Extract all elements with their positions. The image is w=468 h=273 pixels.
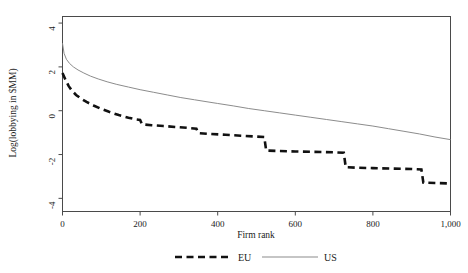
x-axis-title: Firm rank <box>237 230 275 240</box>
y-tick-label: 2 <box>48 70 58 75</box>
x-tick-label: 400 <box>211 219 225 229</box>
legend-label-us: US <box>324 252 337 263</box>
x-tick-label: 800 <box>366 219 380 229</box>
lobbying-distribution-chart: 420-2-4 02004006008001,000 Firm rank Log… <box>0 0 468 273</box>
x-tick-label: 200 <box>133 219 147 229</box>
y-tick-label: -2 <box>48 158 58 166</box>
y-tick-label: -4 <box>48 201 58 209</box>
y-tick-label: 0 <box>48 113 58 118</box>
x-tick-label: 0 <box>60 219 65 229</box>
x-tick-label: 600 <box>289 219 303 229</box>
legend-label-eu: EU <box>238 252 252 263</box>
chart-background <box>0 0 468 273</box>
x-tick-label: 1,000 <box>440 219 461 229</box>
y-axis-title: Log(lobbying in $MM) <box>8 68 19 157</box>
y-tick-label: 4 <box>48 26 58 31</box>
